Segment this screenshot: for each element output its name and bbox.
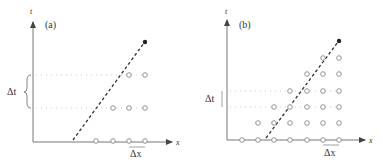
panel-b-title: (b) xyxy=(239,19,251,31)
panel-a-dx-label: Δx xyxy=(130,148,141,159)
panel-a-dt-brace xyxy=(24,75,31,108)
panel-b-characteristic-line xyxy=(266,42,338,138)
panel-b: t x (b) Δt Δx xyxy=(205,7,373,158)
panel-a-characteristic-line xyxy=(73,43,144,140)
panel-b-t-label: t xyxy=(225,7,228,16)
figure-canvas: t x (a) Δt Δx t x (b) Δt Δx xyxy=(0,0,383,166)
panel-a-title: (a) xyxy=(45,19,56,31)
panel-b-dx-label: Δx xyxy=(324,147,335,158)
panel-a-endpoint xyxy=(143,40,147,44)
panel-a: t x (a) Δt Δx xyxy=(7,7,180,159)
panel-a-t-label: t xyxy=(30,7,33,16)
panel-b-dt-label: Δt xyxy=(205,93,214,104)
panel-a-x-label: x xyxy=(175,138,180,147)
panel-b-grid-points xyxy=(240,56,342,143)
panel-b-endpoint xyxy=(337,39,341,43)
panel-b-x-label: x xyxy=(368,136,373,145)
panel-a-dt-label: Δt xyxy=(7,86,16,97)
